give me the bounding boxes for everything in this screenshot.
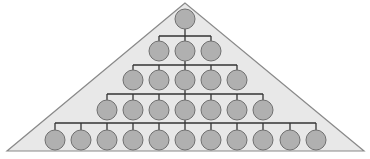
- hierarchy-pyramid-diagram: [0, 0, 370, 159]
- node-circle-level-5: [280, 130, 300, 150]
- node-circle-level-4: [175, 100, 195, 120]
- node-circle-level-5: [97, 130, 117, 150]
- node-circle-level-2: [149, 41, 169, 61]
- node-circle-level-2: [201, 41, 221, 61]
- node-circle-level-4: [97, 100, 117, 120]
- node-circle-level-2: [175, 41, 195, 61]
- node-circle-level-4: [149, 100, 169, 120]
- node-circle-level-3: [149, 70, 169, 90]
- node-circle-level-3: [175, 70, 195, 90]
- node-circle-level-3: [201, 70, 221, 90]
- node-circle-level-5: [253, 130, 273, 150]
- node-circle-level-1: [175, 9, 195, 29]
- node-circle-level-5: [227, 130, 247, 150]
- node-circle-level-5: [306, 130, 326, 150]
- node-circle-level-5: [149, 130, 169, 150]
- node-circle-level-5: [71, 130, 91, 150]
- node-circle-level-5: [123, 130, 143, 150]
- node-circle-level-4: [227, 100, 247, 120]
- node-circle-level-5: [45, 130, 65, 150]
- node-circle-level-4: [123, 100, 143, 120]
- node-circle-level-4: [201, 100, 221, 120]
- node-circle-level-5: [201, 130, 221, 150]
- node-circle-level-5: [175, 130, 195, 150]
- node-circle-level-3: [123, 70, 143, 90]
- node-circle-level-3: [227, 70, 247, 90]
- node-circle-level-4: [253, 100, 273, 120]
